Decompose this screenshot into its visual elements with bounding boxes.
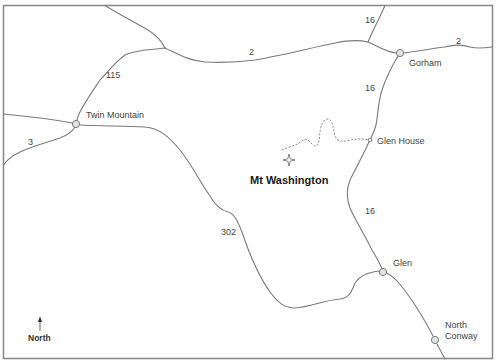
route-label-16-north: 16: [365, 15, 375, 26]
town-node-gorham[interactable]: [396, 49, 403, 56]
compass-label-north: North: [28, 333, 51, 343]
town-node-twin-mountain[interactable]: [72, 120, 79, 127]
map-canvas: [0, 0, 496, 363]
route-label-3: 3: [28, 137, 33, 148]
route-label-16-mid: 16: [365, 83, 375, 94]
town-label-glen-house: Glen House: [377, 136, 425, 147]
route-label-115: 115: [106, 70, 120, 81]
route-label-302: 302: [221, 227, 236, 238]
town-label-glen: Glen: [393, 258, 412, 269]
town-label-gorham: Gorham: [409, 58, 442, 69]
town-node-north-conway[interactable]: [431, 336, 438, 343]
peak-label-mt-washington: Mt Washington: [250, 174, 328, 186]
town-node-glen-house[interactable]: [368, 138, 372, 142]
route-label-16-south: 16: [365, 206, 375, 217]
town-node-glen[interactable]: [379, 268, 386, 275]
town-label-north-conway-line1: North: [445, 320, 478, 331]
route-label-2-east: 2: [456, 36, 461, 47]
route-label-2-west: 2: [249, 47, 254, 58]
town-label-north-conway: North Conway: [445, 320, 478, 342]
town-label-twin-mountain: Twin Mountain: [86, 110, 144, 121]
town-label-north-conway-line2: Conway: [445, 331, 478, 342]
